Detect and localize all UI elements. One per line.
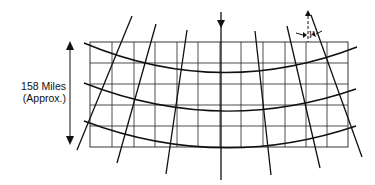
meridians — [77, 12, 362, 180]
distance-label: 158 Miles (Approx.) — [14, 80, 66, 104]
rectangular-grid — [90, 42, 348, 147]
central-meridian-arrow — [217, 20, 225, 28]
distance-arrow — [66, 41, 74, 145]
distance-qualifier: (Approx.) — [14, 92, 66, 104]
gamma-label: γ — [308, 27, 314, 39]
distance-value: 158 Miles — [14, 80, 66, 92]
